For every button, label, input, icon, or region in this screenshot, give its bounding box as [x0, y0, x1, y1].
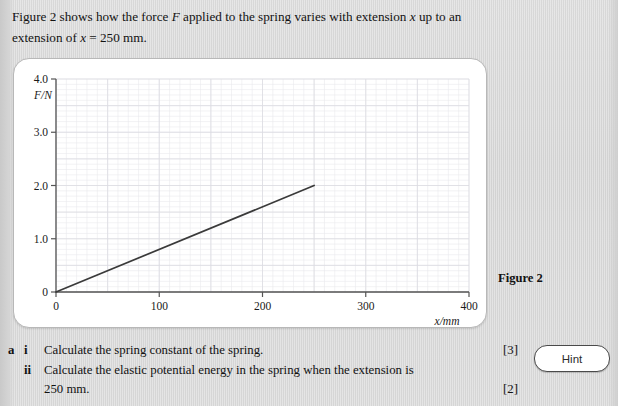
- intro-text-d: extension of: [12, 30, 80, 45]
- question-letter: a: [8, 341, 14, 361]
- question-part-text-ii: Calculate the elastic potential energy i…: [44, 361, 414, 381]
- svg-text:0: 0: [42, 286, 48, 298]
- svg-text:200: 200: [254, 300, 272, 312]
- hint-button-label: Hint: [562, 353, 582, 365]
- question-part-marks-i: [3]: [503, 341, 518, 361]
- svg-text:4.0: 4.0: [34, 73, 49, 85]
- question-row-ii-cont: 250 mm. [2]: [0, 380, 618, 400]
- svg-text:2.0: 2.0: [34, 180, 49, 192]
- question-row-i: a i Calculate the spring constant of the…: [0, 341, 618, 361]
- question-part-marks-ii-cont: [2]: [503, 380, 518, 400]
- svg-text:1.0: 1.0: [34, 233, 49, 245]
- intro-text-b: applied to the spring varies with extens…: [180, 9, 410, 24]
- question-block: a i Calculate the spring constant of the…: [0, 341, 618, 400]
- svg-text:100: 100: [151, 300, 169, 312]
- intro-paragraph: Figure 2 shows how the force F applied t…: [12, 6, 512, 48]
- force-extension-graph: 01.02.03.04.00100200300400F/Nx/mm: [14, 59, 486, 327]
- svg-text:0: 0: [53, 300, 59, 312]
- intro-text-e: = 250 mm.: [86, 30, 147, 45]
- svg-text:3.0: 3.0: [34, 126, 49, 138]
- intro-text-a: Figure 2 shows how the force: [12, 9, 172, 24]
- question-row-ii: ii Calculate the elastic potential energ…: [0, 361, 618, 381]
- question-part-text-ii-cont: 250 mm.: [44, 380, 90, 400]
- symbol-force: F: [172, 9, 180, 24]
- figure-caption: Figure 2: [498, 271, 543, 286]
- question-part-roman-ii: ii: [24, 361, 31, 381]
- figure-card: 01.02.03.04.00100200300400F/Nx/mm: [13, 58, 487, 328]
- intro-text-c: up to an: [416, 9, 462, 24]
- svg-text:300: 300: [357, 300, 375, 312]
- svg-text:400: 400: [460, 300, 478, 312]
- question-part-text-i: Calculate the spring constant of the spr…: [44, 341, 263, 361]
- svg-text:x/mm: x/mm: [434, 315, 460, 327]
- hint-button[interactable]: Hint: [534, 345, 610, 372]
- svg-text:F/N: F/N: [33, 89, 53, 101]
- question-part-roman-i: i: [24, 341, 28, 361]
